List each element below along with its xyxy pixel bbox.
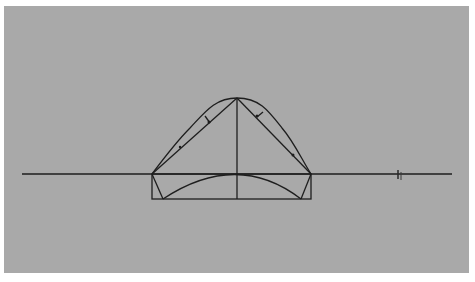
left-lower-dot (179, 146, 181, 148)
lower-box (152, 174, 311, 199)
right-tick-dot (256, 115, 259, 118)
right-lower-diagonal (301, 174, 311, 199)
left-chord (152, 98, 237, 174)
lower-arc (163, 175, 301, 200)
left-lower-diagonal (152, 174, 163, 199)
right-lower-dot (292, 154, 295, 157)
construction-diagram (0, 0, 475, 282)
bell-curve (152, 98, 311, 174)
left-tick-dot (208, 121, 211, 124)
right-chord (237, 98, 311, 174)
cursor-mark-icon (398, 170, 401, 180)
